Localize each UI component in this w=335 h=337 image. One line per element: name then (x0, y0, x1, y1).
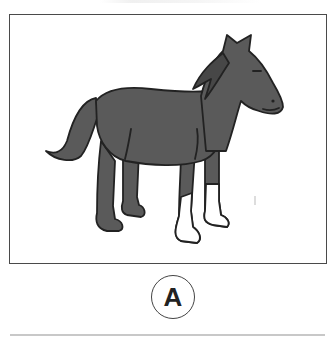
label-text: A (164, 284, 183, 310)
divider (10, 334, 325, 336)
label-badge: A (151, 275, 195, 319)
horse-sock-far (204, 184, 228, 227)
picture-frame (9, 14, 327, 264)
horse-tail (46, 98, 98, 160)
horse-neck-head (201, 35, 283, 151)
horse-illustration (1, 1, 335, 281)
horse-nostril (271, 99, 274, 102)
